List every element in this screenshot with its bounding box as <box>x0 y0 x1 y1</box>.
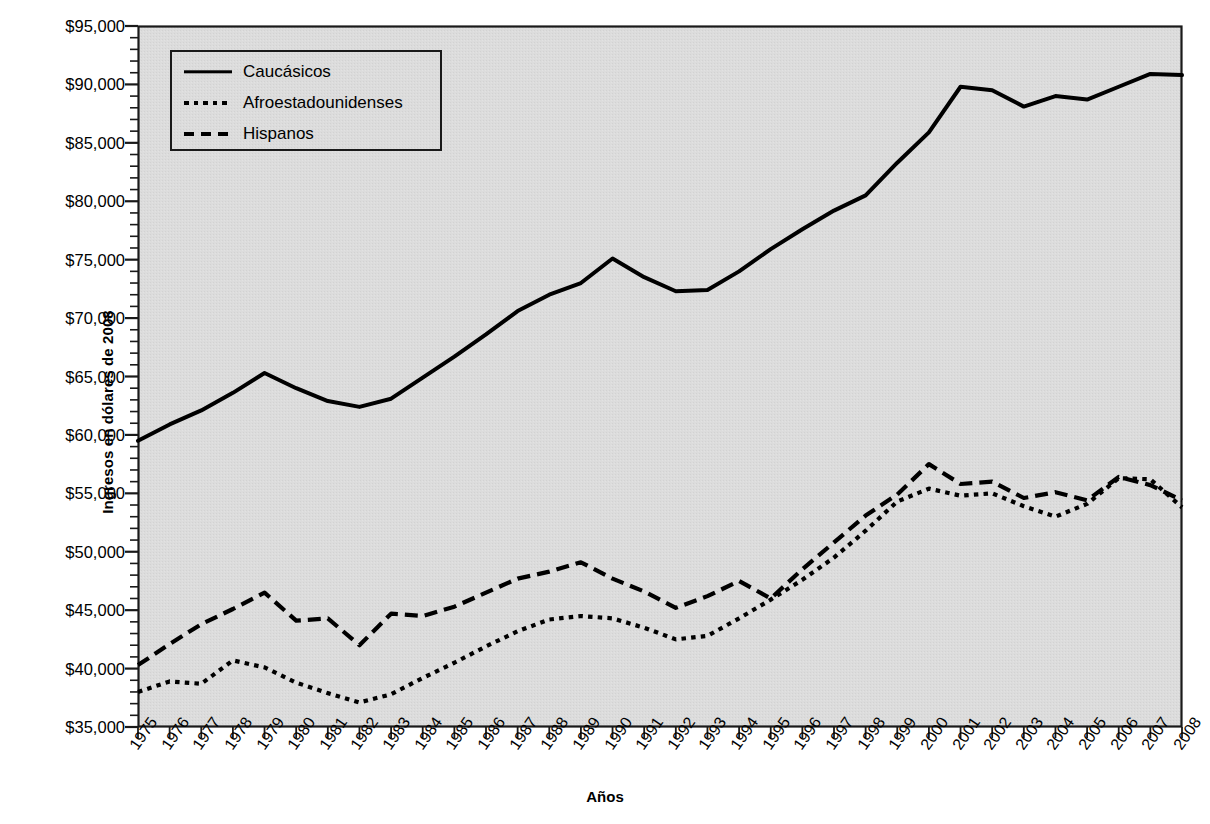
x-axis-tick-label: 2000 <box>917 714 952 753</box>
x-axis-tick-label: 2002 <box>980 714 1015 753</box>
x-axis-tick-label: 1980 <box>284 714 319 753</box>
legend-label-hispanos: Hispanos <box>243 125 314 142</box>
income-by-race-line-chart: Ingresos en dólares de 2008 Años $35,000… <box>0 0 1210 824</box>
x-axis-tick-label: 1997 <box>822 714 857 753</box>
x-axis-tick-label: 1987 <box>506 714 541 753</box>
legend-swatch-dotted-icon <box>184 96 232 110</box>
legend-label-afroestadounidenses: Afroestadounidenses <box>243 94 403 111</box>
x-axis-tick-label: 2006 <box>1107 714 1142 753</box>
x-axis-tick-label: 1996 <box>790 714 825 753</box>
x-axis-tick-label: 1991 <box>632 714 667 753</box>
legend-item-hispanos: Hispanos <box>172 118 440 149</box>
x-axis-tick-label: 1984 <box>411 714 446 753</box>
x-axis-tick-label: 1988 <box>537 714 572 753</box>
x-axis-tick-label: 2003 <box>1012 714 1047 753</box>
x-axis-tick-label: 1986 <box>474 714 509 753</box>
x-axis-tick-label: 1985 <box>442 714 477 753</box>
x-axis-tick-label: 1976 <box>158 714 193 753</box>
x-axis-tick-label: 1978 <box>221 714 256 753</box>
legend-swatch-dashed-icon <box>184 127 232 141</box>
x-axis-tick-label: 1993 <box>695 714 730 753</box>
x-axis-tick-label: 1999 <box>885 714 920 753</box>
x-axis-tick-label: 1983 <box>379 714 414 753</box>
x-axis-tick-label: 1998 <box>854 714 889 753</box>
legend-swatch-solid-icon <box>184 65 232 79</box>
x-axis-tick-label: 1981 <box>316 714 351 753</box>
x-axis-tick-label: 1992 <box>664 714 699 753</box>
legend-item-afroestadounidenses: Afroestadounidenses <box>172 87 440 118</box>
x-axis-tick-label: 1994 <box>727 714 762 753</box>
x-axis-tick-label: 1977 <box>189 714 224 753</box>
x-axis-tick-label: 2001 <box>949 714 984 753</box>
x-axis-tick-label: 1990 <box>601 714 636 753</box>
legend-label-caucasicos: Caucásicos <box>243 63 331 80</box>
chart-legend: Caucásicos Afroestadounidenses Hispanos <box>170 50 442 151</box>
legend-item-caucasicos: Caucásicos <box>172 56 440 87</box>
x-axis-tick-label: 1979 <box>253 714 288 753</box>
x-axis-tick-label: 2008 <box>1170 714 1205 753</box>
x-axis-tick-label: 1982 <box>347 714 382 753</box>
x-axis-tick-label: 1989 <box>569 714 604 753</box>
x-axis-tick-label: 1975 <box>126 714 161 753</box>
x-axis-tick-label: 1995 <box>759 714 794 753</box>
x-axis-tick-label: 2004 <box>1043 714 1078 753</box>
x-axis-tick-label: 2007 <box>1138 714 1173 753</box>
x-axis-tick-label: 2005 <box>1075 714 1110 753</box>
